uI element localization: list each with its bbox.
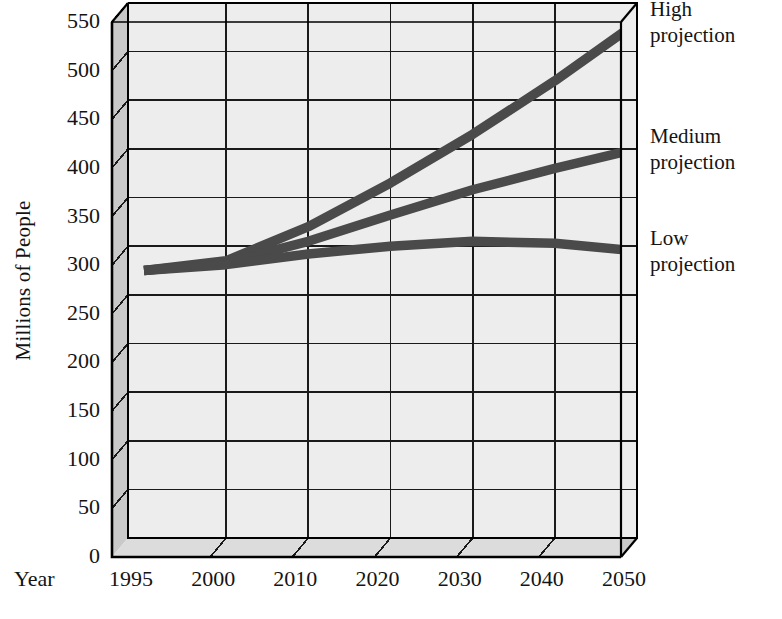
legend-label-line1: Medium	[650, 123, 782, 149]
box-left-wall	[112, 3, 128, 557]
y-axis-tick-label: 550	[28, 10, 100, 32]
box-floor	[112, 538, 637, 557]
legend-label-line2: projection	[650, 149, 782, 175]
legend-item-high-projection: Highprojection	[650, 0, 782, 48]
legend-item-low-projection: Lowprojection	[650, 225, 782, 277]
y-axis-tick-labels: 050100150200250300350400450500550	[22, 0, 100, 619]
y-axis-tick-label: 350	[28, 205, 100, 227]
legend-label-line1: High	[650, 0, 782, 22]
x-axis-tick-label: 1995	[91, 566, 171, 592]
x-axis-tick-label: 2020	[338, 566, 418, 592]
legend-label-line2: projection	[650, 22, 782, 48]
legend-label-line2: projection	[650, 251, 782, 277]
y-axis-tick-label: 150	[28, 399, 100, 421]
y-axis-tick-label: 250	[28, 302, 100, 324]
chart-legend: HighprojectionMediumprojectionLowproject…	[650, 0, 782, 619]
y-axis-tick-label: 400	[28, 156, 100, 178]
x-axis-tick-label: 2000	[173, 566, 253, 592]
legend-item-medium-projection: Mediumprojection	[650, 123, 782, 175]
x-axis-tick-label: 2010	[255, 566, 335, 592]
legend-label-line1: Low	[650, 225, 782, 251]
y-axis-tick-label: 300	[28, 253, 100, 275]
y-axis-tick-label: 200	[28, 350, 100, 372]
y-axis-tick-label: 100	[28, 448, 100, 470]
population-projection-chart: Millions of People 050100150200250300350…	[0, 0, 782, 619]
y-axis-tick-label: 500	[28, 59, 100, 81]
y-axis-tick-label: 0	[28, 545, 100, 567]
y-axis-tick-label: 50	[28, 496, 100, 518]
x-axis-title: Year	[14, 566, 55, 592]
y-axis-tick-label: 450	[28, 107, 100, 129]
x-axis-tick-label: 2030	[420, 566, 500, 592]
x-axis-tick-label: 2040	[502, 566, 582, 592]
